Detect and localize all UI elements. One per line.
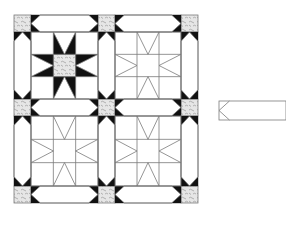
sashing-horizontal <box>115 15 181 32</box>
diagonal-line <box>137 32 148 54</box>
quilt-diagram <box>0 0 286 231</box>
diagonal-line <box>65 163 76 186</box>
diagonal-line <box>137 77 148 99</box>
diagonal-line <box>31 139 53 151</box>
sashing-hexagon <box>98 116 115 186</box>
diagonal-line <box>137 163 148 186</box>
block-top-right <box>115 32 181 99</box>
strip-outline <box>219 101 286 120</box>
sashing-hexagon <box>181 116 198 186</box>
sashing-vertical <box>181 116 198 186</box>
diagonal-line <box>53 163 64 186</box>
cornerstone <box>181 186 198 203</box>
cornerstone <box>181 15 198 32</box>
diagonal-line <box>76 151 98 163</box>
diagonal-line <box>115 54 137 65</box>
sashing-horizontal <box>31 99 98 116</box>
strip-end-chevron <box>219 101 229 120</box>
diagonal-line <box>53 116 64 139</box>
diagonal-line <box>159 151 181 163</box>
diagonal-line <box>115 151 137 163</box>
sashing-hexagon <box>181 32 198 99</box>
sashing-hexagon <box>115 15 181 32</box>
diagonal-line <box>148 77 159 99</box>
sashing-vertical <box>98 116 115 186</box>
cornerstone <box>98 186 115 203</box>
diagonal-line <box>148 163 159 186</box>
cornerstone <box>14 99 31 116</box>
diagonal-line <box>148 116 159 139</box>
star-center <box>53 54 75 76</box>
diagonal-line <box>159 54 181 65</box>
sashing-horizontal <box>115 186 181 203</box>
cornerstone <box>14 15 31 32</box>
sashing-hexagon <box>31 99 98 116</box>
block-bottom-right <box>115 116 181 186</box>
diagonal-line <box>148 32 159 54</box>
sashing-hexagon <box>14 32 31 99</box>
cornerstone <box>98 15 115 32</box>
block-outline <box>115 32 181 99</box>
sashing-strip-template <box>219 101 286 120</box>
cornerstone <box>98 99 115 116</box>
diagonal-line <box>115 139 137 151</box>
diagonal-line <box>159 139 181 151</box>
block-top-left <box>31 32 98 99</box>
sashing-hexagon <box>14 116 31 186</box>
block-outline <box>31 116 98 186</box>
diagonal-line <box>31 151 53 163</box>
sashing-hexagon <box>31 186 98 203</box>
sashing-hexagon <box>115 99 181 116</box>
sashing-horizontal <box>31 186 98 203</box>
sashing-vertical <box>14 116 31 186</box>
diagonal-line <box>115 66 137 77</box>
sashing-horizontal <box>115 99 181 116</box>
sashing-horizontal <box>31 15 98 32</box>
sashing-hexagon <box>31 15 98 32</box>
cornerstone <box>181 99 198 116</box>
diagonal-line <box>137 116 148 139</box>
sashing-vertical <box>98 32 115 99</box>
quilt-layout <box>14 15 198 203</box>
sashing-vertical <box>14 32 31 99</box>
sashing-hexagon <box>98 32 115 99</box>
block-bottom-left <box>31 116 98 186</box>
diagonal-line <box>65 116 76 139</box>
sashing-hexagon <box>115 186 181 203</box>
block-outline <box>115 116 181 186</box>
cornerstone <box>14 186 31 203</box>
sashing-vertical <box>181 32 198 99</box>
diagonal-line <box>76 139 98 151</box>
diagonal-line <box>159 66 181 77</box>
